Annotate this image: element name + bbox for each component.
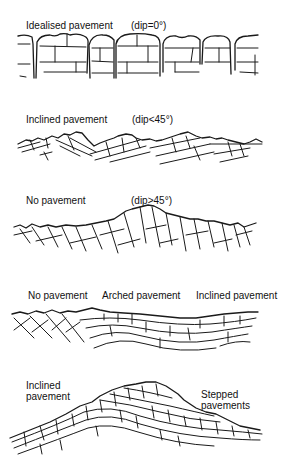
- idealised-pavement-sketch: [0, 0, 304, 100]
- folded-strata-sketch: [0, 280, 304, 360]
- panel-inclined-pavement: Inclined pavement (dip<45°): [0, 100, 304, 185]
- panel-folded-strata: No pavement Arched pavement Inclined pav…: [0, 280, 304, 360]
- inclined-pavement-sketch: [0, 100, 304, 185]
- stepped-pavements-sketch: [0, 360, 304, 462]
- no-pavement-sketch: [0, 185, 304, 280]
- panel-idealised-pavement: Idealised pavement (dip=0°): [0, 0, 304, 100]
- panel-no-pavement-steep: No pavement (dip>45°): [0, 185, 304, 280]
- panel-stepped-pavements: Inclined pavement Stepped pavements: [0, 360, 304, 462]
